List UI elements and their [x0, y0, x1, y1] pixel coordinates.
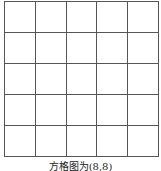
grid-cell: [128, 126, 159, 157]
grid-cell: [128, 33, 159, 64]
grid-cell: [97, 33, 128, 64]
grid-cell: [128, 2, 159, 33]
grid-cell: [97, 64, 128, 95]
grid-cell: [5, 33, 36, 64]
grid-cell: [5, 64, 36, 95]
grid-cell: [128, 64, 159, 95]
grid-cell: [36, 64, 67, 95]
grid-cell: [5, 2, 36, 33]
grid-cell: [36, 33, 67, 64]
grid-cell: [36, 2, 67, 33]
grid-cell: [67, 64, 98, 95]
square-grid: [4, 1, 159, 157]
grid-cell: [5, 95, 36, 126]
grid-cell: [67, 2, 98, 33]
grid-cell: [97, 95, 128, 126]
figure-caption: 方格图为(8,8): [0, 160, 161, 171]
grid-cell: [67, 95, 98, 126]
grid-cell: [97, 126, 128, 157]
grid-cell: [67, 33, 98, 64]
grid-cell: [97, 2, 128, 33]
grid-cell: [36, 95, 67, 126]
grid-cell: [128, 95, 159, 126]
grid-cell: [67, 126, 98, 157]
grid-cell: [36, 126, 67, 157]
grid-cell: [5, 126, 36, 157]
